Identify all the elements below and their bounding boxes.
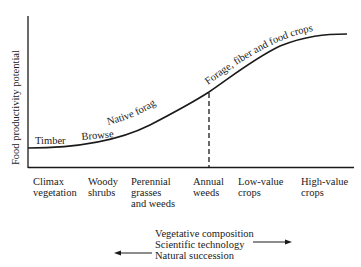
category-line: crops — [301, 187, 348, 198]
category-line: and weeds — [131, 198, 175, 209]
category-line: weeds — [193, 187, 224, 198]
category-line: High-value — [301, 176, 348, 187]
category-line: Woody — [88, 176, 118, 187]
succession-arrow-head — [114, 251, 121, 256]
curve-label-timber: Timber — [35, 135, 66, 146]
category-annual-weeds: Annual weeds — [193, 176, 224, 198]
diagram-graphics: Native forage Forage, fiber and food cro… — [0, 0, 361, 267]
legend-scientific-technology: Scientific technology — [155, 239, 254, 250]
category-low-value-crops: Low-value crops — [238, 176, 283, 198]
category-line: Perennial — [131, 176, 175, 187]
category-line: shrubs — [88, 187, 118, 198]
category-line: grasses — [131, 187, 175, 198]
category-line: vegetation — [33, 187, 77, 198]
legend-vegetative-composition: Vegetative composition — [155, 228, 254, 239]
technology-arrow-head — [285, 240, 292, 245]
category-line: crops — [238, 187, 283, 198]
category-line: Annual — [193, 176, 224, 187]
category-perennial-grasses: Perennial grasses and weeds — [131, 176, 175, 209]
category-woody-shrubs: Woody shrubs — [88, 176, 118, 198]
legend-natural-succession: Natural succession — [155, 250, 254, 261]
category-climax-vegetation: Climax vegetation — [33, 176, 77, 198]
category-line: Climax — [33, 176, 77, 187]
curve-label-crops: Forage, fiber and food crops — [203, 22, 314, 87]
productivity-curve — [28, 34, 347, 148]
category-high-value-crops: High-value crops — [301, 176, 348, 198]
legend: Vegetative composition Scientific techno… — [155, 228, 254, 261]
curve-label-native-forage: Native forage — [0, 0, 158, 127]
y-axis-label: Food productivity potential — [10, 50, 21, 165]
category-line: Low-value — [238, 176, 283, 187]
